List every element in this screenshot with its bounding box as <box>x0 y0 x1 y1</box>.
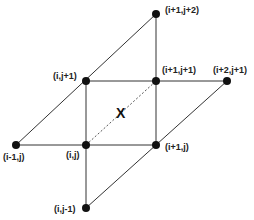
node-i-j <box>82 141 90 149</box>
center-x-label: X <box>116 105 126 121</box>
node-i1-j2 <box>152 10 160 18</box>
node-i2-j1 <box>223 77 231 85</box>
node-i-jm1 <box>82 204 90 212</box>
label-i-jm1: (i,j-1) <box>54 204 76 214</box>
label-im1-j: (i-1,j) <box>3 152 25 162</box>
label-i-j1: (i,j+1) <box>53 71 77 81</box>
label-i-j: (i,j) <box>66 150 80 160</box>
node-i1-j1 <box>152 77 160 85</box>
node-i-j1 <box>82 77 90 85</box>
node-i1-j <box>152 141 160 149</box>
label-i1-j2: (i+1,j+2) <box>165 5 199 15</box>
grid-diagram: (i+1,j+2) (i,j+1) (i+1,j+1) (i+2,j+1) (i… <box>0 0 254 220</box>
label-i2-j1: (i+2,j+1) <box>213 65 247 75</box>
label-i1-j: (i+1,j) <box>165 142 189 152</box>
node-im1-j <box>12 141 20 149</box>
label-i1-j1: (i+1,j+1) <box>162 65 196 75</box>
